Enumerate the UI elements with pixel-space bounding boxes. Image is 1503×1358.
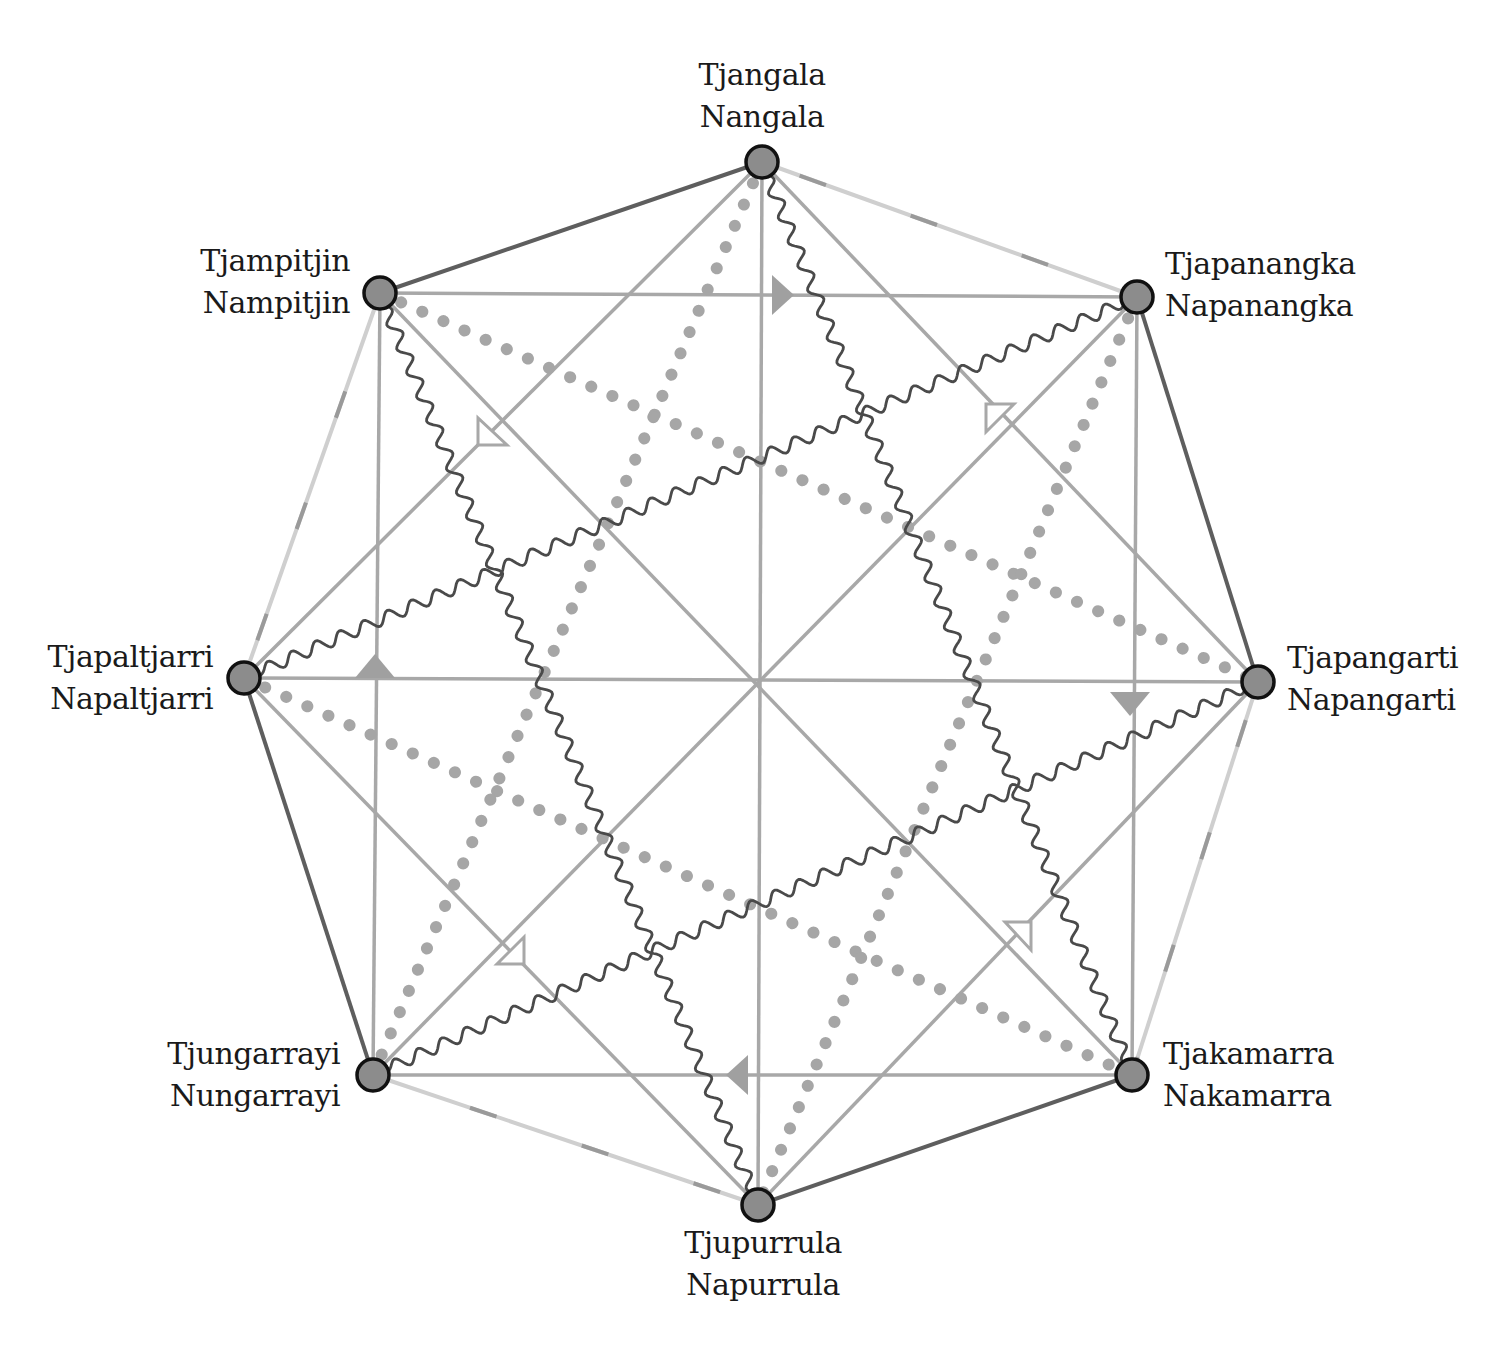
node-napurrula [742,1189,774,1221]
straight-line [373,293,380,1075]
male-name: Tjapaltjarri [48,636,213,678]
dotted-line [380,293,1258,682]
filled-arrow-left-icon [726,1055,748,1095]
female-name: Napanangka [1165,285,1356,327]
straight-line [380,293,1132,1075]
wavy-line [373,682,1258,1075]
female-name: Nangala [698,96,825,138]
male-name: Tjapangarti [1287,637,1458,679]
female-name: Nakamarra [1163,1075,1334,1117]
label-nungarrayi: TjungarrayiNungarrayi [167,1033,340,1117]
straight-line [373,297,1137,1075]
label-napurrula: TjupurrulaNapurrula [684,1222,842,1306]
female-name: Nungarrayi [167,1075,340,1117]
male-name: Tjakamarra [1163,1033,1334,1075]
straight-line [1132,297,1137,1075]
outer-dark-edge [758,1075,1132,1205]
node-nampitjin [364,277,396,309]
outer-dark-edge [380,162,762,293]
male-name: Tjungarrayi [167,1033,340,1075]
label-nampitjin: TjampitjinNampitjin [200,240,350,324]
filled-arrow-up-icon [355,654,395,678]
node-napaltjarri [228,662,260,694]
node-nangala [746,146,778,178]
outer-dark-edge [1137,297,1258,682]
female-name: Nampitjin [200,282,350,324]
filled-arrow-right-icon [772,275,794,315]
wavy-line [762,162,1132,1075]
label-napangarti: TjapangartiNapangarti [1287,637,1458,721]
female-name: Napaltjarri [48,678,213,720]
male-name: Tjapanangka [1165,243,1356,285]
kinship-diagram [0,0,1503,1358]
dotted-line [373,162,762,1075]
straight-line [380,293,1137,297]
filled-arrow-down-icon [1110,692,1150,716]
male-name: Tjupurrula [684,1222,842,1264]
female-name: Napurrula [684,1264,842,1306]
node-napanangka [1121,281,1153,313]
node-napangarti [1242,666,1274,698]
female-name: Napangarti [1287,679,1458,721]
label-nangala: TjangalaNangala [698,54,825,138]
straight-connection-lines [244,162,1258,1205]
label-napanangka: TjapanangkaNapanangka [1165,243,1356,327]
outer-dark-edge [244,678,373,1075]
label-nakamarra: TjakamarraNakamarra [1163,1033,1334,1117]
male-name: Tjangala [698,54,825,96]
male-name: Tjampitjin [200,240,350,282]
label-napaltjarri: TjapaltjarriNapaltjarri [48,636,213,720]
straight-line [244,678,758,1205]
node-nakamarra [1116,1059,1148,1091]
node-nungarrayi [357,1059,389,1091]
